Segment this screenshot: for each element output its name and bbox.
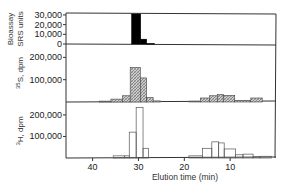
bottom-bar-1: [125, 156, 130, 158]
middle-ytick-label-1: 200,000: [29, 52, 62, 62]
bottom-bar-2: [129, 132, 136, 158]
middle-bar-12: [235, 101, 251, 102]
middle-bar-5: [147, 98, 153, 102]
middle-bar-10: [217, 95, 223, 102]
bottom-bar-3: [136, 107, 143, 158]
bottom-bar-7: [212, 142, 219, 158]
bottom-bar-6: [203, 148, 212, 158]
chromatogram-figure: 010,00020,00030,000100,000200,000100,000…: [0, 0, 286, 188]
middle-ylabel-text: S, dpm: [16, 57, 25, 83]
middle-bar-7: [189, 101, 200, 102]
middle-bar-0: [99, 101, 110, 102]
panel-divider-top: [66, 44, 276, 45]
middle-bar-4: [140, 78, 146, 102]
middle-bar-1: [111, 99, 122, 102]
xtick-label-0: 40: [88, 162, 98, 172]
bottom-bar-4: [143, 148, 149, 158]
top-bar-2: [147, 44, 155, 45]
middle-bar-3: [130, 67, 140, 102]
bottom-bar-8: [219, 143, 225, 158]
middle-ytick-label-0: 100,000: [29, 75, 62, 85]
top-bar-1: [141, 39, 147, 44]
bottom-bar-0: [113, 156, 124, 158]
bottom-ytick-label-0: 100,000: [29, 131, 62, 141]
xtick-label-3: 10: [225, 162, 235, 172]
top-border: [66, 13, 276, 14]
top-ytick-label-1: 10,000: [34, 29, 62, 39]
middle-bar-6: [153, 101, 160, 102]
middle-bar-8: [200, 98, 209, 102]
top-ytick-label-3: 30,000: [34, 10, 62, 20]
top-bar-0: [132, 14, 141, 44]
bottom-ytick-label-1: 200,000: [29, 110, 62, 120]
right-border: [275, 14, 276, 158]
top-ylabel-line2: SRS units: [16, 11, 25, 47]
top-ytick-label-2: 20,000: [34, 20, 62, 30]
middle-bar-11: [223, 95, 234, 102]
bottom-ylabel: 3H, dpm: [15, 116, 25, 145]
x-axis-label: Elution time (min): [152, 172, 218, 182]
top-ylabel-line1: Bioassay: [6, 13, 15, 45]
middle-bar-9: [210, 96, 218, 102]
bottom-ylabel-text: H, dpm: [16, 116, 25, 142]
bottom-bar-9: [224, 149, 235, 158]
middle-bar-2: [122, 96, 130, 102]
panel-top: [66, 13, 276, 14]
xtick-label-1: 30: [133, 162, 143, 172]
middle-bar-13: [251, 98, 262, 102]
middle-ylabel: 35S, dpm: [15, 57, 25, 89]
xtick-label-2: 20: [179, 162, 189, 172]
top-ytick-label-0: 0: [57, 39, 62, 49]
